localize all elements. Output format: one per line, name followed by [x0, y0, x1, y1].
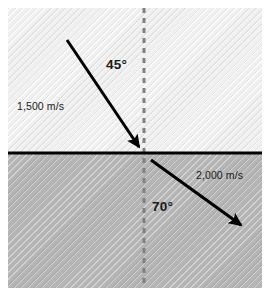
upper-medium-speed-label: 1,500 m/s — [17, 101, 64, 112]
refracted-angle-label: 70° — [152, 200, 173, 214]
diagram-vector-overlay — [0, 0, 270, 299]
refraction-diagram: 45° 70° 1,500 m/s 2,000 m/s — [0, 0, 270, 299]
incident-angle-label: 45° — [106, 58, 127, 72]
incident-ray-arrow — [67, 40, 139, 147]
lower-medium-speed-label: 2,000 m/s — [196, 170, 243, 181]
